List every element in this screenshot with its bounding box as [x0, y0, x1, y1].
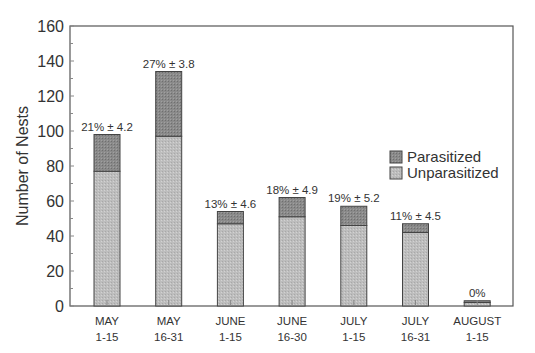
bar-annotation: 13% ± 4.6: [205, 198, 257, 210]
x-tick-label-days: 1-15: [466, 331, 489, 343]
x-tick-label-month: JUNE: [277, 315, 307, 327]
bars: 21% ± 4.227% ± 3.813% ± 4.618% ± 4.919% …: [81, 58, 490, 307]
x-axis: MAY1-15MAY16-31JUNE1-15JUNE16-30JULY1-15…: [95, 315, 501, 343]
bar-group: 0%: [464, 287, 490, 306]
y-tick-label: 80: [46, 158, 64, 175]
x-tick-label-days: 16-30: [277, 331, 306, 343]
y-tick-label: 120: [37, 88, 64, 105]
bar-annotation: 11% ± 4.5: [390, 210, 441, 222]
x-tick-label-days: 1-15: [342, 331, 365, 343]
legend-label: Parasitized: [407, 148, 481, 165]
y-axis-label: Number of Nests: [14, 106, 31, 226]
x-tick-label-days: 16-31: [154, 331, 183, 343]
y-tick-label: 100: [37, 123, 64, 140]
legend-item-parasitized: Parasitized: [390, 148, 481, 165]
x-tick-label-days: 1-15: [219, 331, 242, 343]
bar-group: 13% ± 4.6: [205, 198, 257, 307]
bar-unparasitized: [94, 171, 120, 306]
legend-item-unparasitized: Unparasitized: [390, 164, 499, 181]
bar-annotation: 27% ± 3.8: [143, 58, 195, 70]
y-tick-label: 0: [55, 298, 64, 315]
bar-unparasitized: [341, 226, 367, 307]
x-tick-label-days: 1-15: [95, 331, 118, 343]
y-tick-label: 140: [37, 53, 64, 70]
y-tick-label: 40: [46, 228, 64, 245]
legend-swatch: [390, 151, 402, 163]
legend: ParasitizedUnparasitized: [390, 148, 499, 181]
y-axis: 020406080100120140160: [37, 18, 74, 315]
bar-group: 21% ± 4.2: [81, 121, 133, 307]
y-tick-label: 60: [46, 193, 64, 210]
bar-group: 19% ± 5.2: [328, 192, 380, 306]
stacked-bar-chart: Number of Nests 020406080100120140160 MA…: [0, 0, 535, 353]
bar-unparasitized: [403, 233, 429, 307]
bar-parasitized: [341, 206, 367, 225]
bar-annotation: 21% ± 4.2: [81, 121, 133, 133]
y-tick-label: 160: [37, 18, 64, 35]
bar-annotation: 18% ± 4.9: [266, 184, 318, 196]
bar-annotation: 19% ± 5.2: [328, 192, 380, 204]
y-tick-label: 20: [46, 263, 64, 280]
bar-parasitized: [94, 135, 120, 172]
x-tick-label-month: AUGUST: [453, 315, 501, 327]
bar-group: 18% ± 4.9: [266, 184, 318, 307]
bar-parasitized: [217, 212, 243, 224]
x-tick-label-month: MAY: [95, 315, 119, 327]
x-tick-label-month: MAY: [157, 315, 181, 327]
bar-unparasitized: [279, 217, 305, 306]
bar-parasitized: [279, 198, 305, 217]
bar-parasitized: [156, 72, 182, 137]
bar-group: 27% ± 3.8: [143, 58, 195, 307]
bar-unparasitized: [156, 136, 182, 306]
legend-label: Unparasitized: [407, 164, 499, 181]
x-tick-label-days: 16-31: [401, 331, 430, 343]
bar-annotation: 0%: [469, 287, 486, 299]
bar-group: 11% ± 4.5: [390, 210, 441, 306]
legend-swatch: [390, 167, 402, 179]
bar-parasitized: [403, 224, 429, 233]
x-tick-label-month: JULY: [402, 315, 430, 327]
bar-unparasitized: [217, 224, 243, 306]
x-tick-label-month: JULY: [340, 315, 368, 327]
x-tick-label-month: JUNE: [215, 315, 245, 327]
